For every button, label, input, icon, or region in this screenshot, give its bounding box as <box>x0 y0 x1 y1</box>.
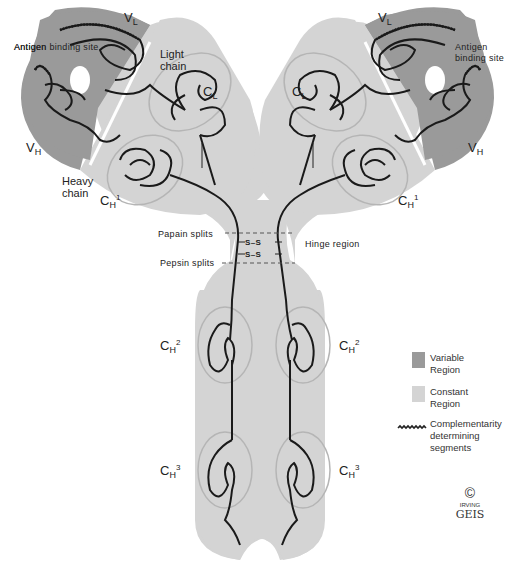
vh-left-label: VH <box>26 140 41 157</box>
papain-splits-label: Papain splits <box>158 229 213 240</box>
legend-swatch-variable <box>412 352 425 368</box>
legend-swatch-constant <box>412 386 425 402</box>
vl-left-label: VL <box>124 10 138 27</box>
antigen-binding-site-left: Antigen binding site <box>14 42 66 53</box>
legend-variable-label: Variable Region <box>430 352 480 376</box>
pepsin-splits-label: Pepsin splits <box>160 258 214 269</box>
antibody-illustration <box>0 0 515 572</box>
antibody-diagram: Antigen Antigen binding site Light chain… <box>0 0 515 572</box>
ch1-right-label: CH1 <box>398 193 418 210</box>
legend-constant-label: Constant Region <box>430 386 480 410</box>
legend-variable: Variable Region <box>430 352 500 376</box>
antigen-binding-site-right: Antigen binding site <box>455 42 505 64</box>
copyright-icon: © <box>450 485 490 501</box>
ch2-left-label: CH2 <box>160 338 180 355</box>
hinge-region-label: Hinge region <box>305 239 360 250</box>
legend-constant: Constant Region <box>430 386 500 410</box>
hinge-disulfide-2: S–S <box>245 249 261 260</box>
legend-swatch-cdr <box>398 426 426 428</box>
ch3-right-label: CH3 <box>339 463 359 480</box>
vh-right-label: VH <box>468 140 483 157</box>
cl-left-label: CL <box>203 84 217 101</box>
ch2-right-label: CH2 <box>339 338 359 355</box>
ch1-left-label: CH1 <box>100 193 120 210</box>
light-chain-label: Light chain <box>160 48 196 72</box>
heavy-chain-label: Heavy chain <box>62 175 102 199</box>
artist-signature: © IRVING GEIS <box>450 485 490 519</box>
vl-right-label: VL <box>378 10 392 27</box>
legend-cdr-label: Complementarity determining segments <box>430 418 510 454</box>
cl-right-label: CL <box>292 84 306 101</box>
signature-line2: GEIS <box>450 510 490 519</box>
ch3-left-label: CH3 <box>160 463 180 480</box>
hinge-disulfide-1: S–S <box>245 237 261 248</box>
legend-cdr: Complementarity determining segments <box>430 418 515 454</box>
